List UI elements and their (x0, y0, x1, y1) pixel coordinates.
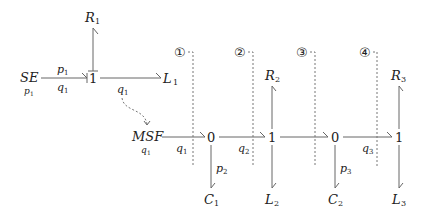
bond-1b-to-r2 (272, 86, 276, 129)
bond-graph-diagram: SE p 1 p 1 q 1 1 R 1 q 1 L 1 (0, 0, 423, 218)
svg-text:R: R (264, 68, 275, 83)
junction-1c: 1 (395, 130, 403, 145)
junction-0b: 0 (331, 130, 339, 145)
svg-text:3: 3 (401, 199, 406, 208)
bond-1c-to-l3 (399, 145, 403, 188)
svg-text:2: 2 (275, 75, 280, 84)
junction-1a: 1 (89, 71, 97, 86)
bond-0b-to-c2: p 3 (335, 145, 351, 188)
modulated-source-flow: MSF q 1 (131, 129, 164, 156)
bond-0b-to-1c: q 3 (343, 132, 392, 156)
bond-se-to-1a: p 1 q 1 (41, 63, 87, 95)
modulation-signal (122, 98, 150, 125)
resistor-r1: R 1 (84, 10, 100, 26)
svg-text:1: 1 (64, 87, 68, 95)
bond-1b-to-0b (280, 132, 328, 137)
junction-1b: 1 (268, 130, 276, 145)
inductor-l2: L 2 (264, 192, 279, 208)
se-bond-q: q (57, 81, 64, 94)
svg-text:q: q (362, 142, 369, 155)
inductor-l3: L 3 (391, 192, 406, 208)
junction-0a: 0 (207, 130, 215, 145)
se-sub-index: 1 (30, 90, 34, 97)
svg-text:③: ③ (296, 45, 308, 60)
se-label: SE (20, 70, 39, 85)
capacitor-c1: C 1 (204, 192, 219, 208)
svg-text:C: C (328, 192, 338, 207)
bond-0a-to-c1: p 2 (211, 145, 227, 188)
l1-bond-q: q (117, 83, 124, 96)
bond-1c-to-r3 (399, 86, 403, 129)
svg-text:L: L (264, 192, 274, 207)
svg-text:3: 3 (369, 148, 373, 156)
svg-text:q: q (176, 142, 183, 155)
msf-label: MSF (131, 129, 164, 144)
svg-text:1: 1 (124, 89, 128, 97)
svg-text:R: R (84, 10, 95, 25)
svg-text:2: 2 (338, 199, 343, 208)
resistor-r3: R 3 (390, 68, 406, 84)
svg-text:2: 2 (274, 199, 279, 208)
se-bond-p: p (57, 63, 64, 76)
svg-text:C: C (204, 192, 214, 207)
svg-text:p: p (340, 162, 347, 175)
svg-text:②: ② (234, 45, 246, 60)
capacitor-c2: C 2 (328, 192, 343, 208)
svg-text:1: 1 (214, 199, 219, 208)
source-effort-se: SE p 1 (20, 70, 39, 97)
bond-1a-to-r1 (88, 28, 98, 71)
svg-text:1: 1 (147, 149, 151, 156)
cut-marker-3: ③ (296, 45, 315, 167)
svg-text:3: 3 (401, 75, 406, 84)
inductor-l1: L 1 (162, 71, 178, 87)
svg-text:q: q (238, 142, 245, 155)
svg-text:1: 1 (64, 69, 68, 77)
svg-text:1: 1 (173, 78, 178, 87)
svg-text:④: ④ (359, 45, 371, 60)
svg-text:1: 1 (183, 148, 187, 156)
bond-msf-to-0a: q 1 (162, 132, 205, 156)
svg-text:3: 3 (347, 168, 351, 176)
bond-1b-to-l2 (272, 145, 276, 188)
svg-text:L: L (391, 192, 401, 207)
bond-0a-to-1b: q 2 (219, 132, 265, 156)
svg-text:2: 2 (245, 148, 249, 156)
svg-text:1: 1 (95, 17, 100, 26)
svg-text:p: p (216, 162, 223, 175)
svg-text:2: 2 (223, 168, 227, 176)
bond-1a-to-l1: q 1 (100, 73, 161, 97)
resistor-r2: R 2 (264, 68, 280, 84)
svg-text:①: ① (174, 45, 186, 60)
svg-text:R: R (390, 68, 401, 83)
svg-text:L: L (162, 71, 172, 86)
